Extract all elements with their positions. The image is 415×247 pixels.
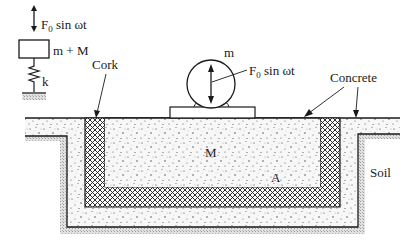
model-ground-hatch [22,94,46,100]
concrete-leader-1 [309,87,344,113]
cork-leader [97,74,106,113]
cork-label: Cork [92,57,119,72]
machine-base-plate [170,107,255,118]
foundation-diagram: F0 sin ωt m + M k [0,0,415,247]
concrete-leader-2 [356,87,358,111]
model-force-label: F0 sin ωt [41,17,87,34]
cork-arrowhead-icon [94,110,100,118]
soil-label: Soil [370,165,391,180]
spring-icon [29,58,39,92]
block-mass-label: M [205,145,217,160]
force-double-arrow-icon [31,5,37,32]
spring-mass-model: F0 sin ωt m + M k [19,5,89,100]
area-label: A [271,170,281,185]
model-spring-label: k [42,74,49,89]
model-mass-box [19,40,49,58]
concrete-label: Concrete [330,70,377,85]
machine-force-label: F0 sin ωt [249,63,295,80]
machine-mass-label: m [224,45,234,60]
model-mass-label: m + M [53,43,89,58]
concrete-arrowhead-2-icon [353,110,359,118]
machine: m F0 sin ωt [170,45,295,118]
concrete-arrowhead-1-icon [304,109,313,117]
